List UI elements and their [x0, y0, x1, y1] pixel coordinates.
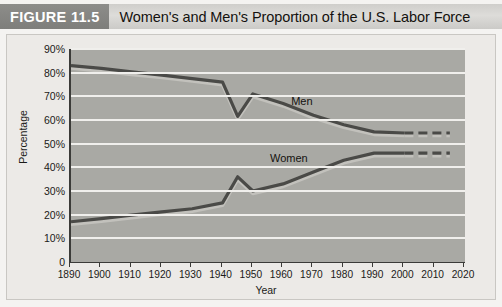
x-tick-label: 2000 [391, 269, 414, 280]
x-tick [221, 262, 222, 267]
gridline [71, 190, 465, 192]
x-tick [130, 262, 131, 267]
y-tick-label: 40% [31, 161, 65, 173]
x-tick [311, 262, 312, 267]
x-tick-label: 1920 [149, 269, 172, 280]
y-tick-label: 0 [31, 256, 65, 268]
x-axis-line: 1890190019101920193019401950196019701980… [69, 262, 465, 263]
x-tick [342, 262, 343, 267]
x-tick-label: 1970 [300, 269, 323, 280]
x-tick [372, 262, 373, 267]
gridline [71, 214, 465, 216]
x-tick [251, 262, 252, 267]
x-tick-label: 1910 [118, 269, 141, 280]
y-tick-label: 10% [31, 232, 65, 244]
x-tick [190, 262, 191, 267]
x-tick-label: 2020 [452, 269, 475, 280]
series-path [71, 153, 404, 222]
x-tick [402, 262, 403, 267]
gridline [71, 95, 465, 97]
y-tick-label: 90% [31, 43, 65, 55]
series-path [71, 66, 404, 133]
x-tick-label: 1890 [58, 269, 81, 280]
gridline [71, 143, 465, 145]
chart-lines [71, 49, 465, 262]
x-tick-label: 1950 [240, 269, 263, 280]
x-tick-label: 1940 [209, 269, 232, 280]
chart-frame: Percentage 010%20%30%40%50%60%70%80%90% … [6, 34, 496, 300]
x-tick-label: 1900 [88, 269, 111, 280]
y-tick-label: 20% [31, 209, 65, 221]
x-tick [281, 262, 282, 267]
plot-area: Men Women [69, 49, 465, 262]
y-tick-label: 80% [31, 67, 65, 79]
x-tick [99, 262, 100, 267]
gridline [71, 166, 465, 168]
figure-container: FIGURE 11.5 Women's and Men's Proportion… [0, 0, 502, 307]
x-tick-label: 1960 [270, 269, 293, 280]
x-tick [160, 262, 161, 267]
y-tick-label: 50% [31, 138, 65, 150]
y-tick-label: 70% [31, 90, 65, 102]
x-tick-label: 1990 [361, 269, 384, 280]
gridline [71, 48, 465, 50]
x-tick-label: 2010 [421, 269, 444, 280]
series-path [71, 68, 404, 135]
y-tick-label: 30% [31, 185, 65, 197]
y-axis-tick-labels: 010%20%30%40%50%60%70%80%90% [21, 49, 65, 262]
x-axis-title: Year [69, 284, 463, 296]
x-tick [463, 262, 464, 267]
x-tick [69, 262, 70, 267]
y-tick-label: 60% [31, 114, 65, 126]
figure-number-tag: FIGURE 11.5 [0, 4, 109, 29]
x-tick-label: 1980 [330, 269, 353, 280]
figure-title-text: Women's and Men's Proportion of the U.S.… [109, 9, 471, 25]
x-tick-label: 1930 [179, 269, 202, 280]
figure-title-bar: FIGURE 11.5 Women's and Men's Proportion… [0, 4, 502, 29]
gridline [71, 119, 465, 121]
gridline [71, 237, 465, 239]
gridline [71, 72, 465, 74]
series-label-women: Women [270, 152, 308, 164]
x-tick [433, 262, 434, 267]
